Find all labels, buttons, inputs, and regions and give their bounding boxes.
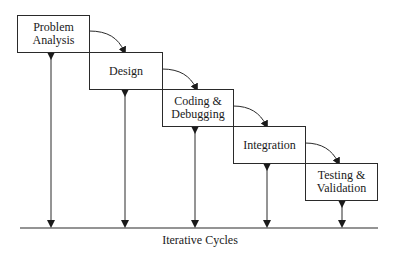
stage-label-line1: Design [109, 65, 143, 78]
flow-arrow-2 [162, 69, 196, 88]
stage-label-line1: Integration [243, 139, 296, 152]
flow-arrow-1 [89, 31, 124, 51]
stage-label-line2: Validation [317, 182, 366, 195]
flow-arrow-3 [233, 106, 266, 125]
stage-problem-analysis: Problem Analysis [17, 15, 90, 53]
stage-integration: Integration [233, 126, 306, 164]
stage-testing-validation: Testing & Validation [305, 163, 378, 201]
stage-coding-debugging: Coding & Debugging [162, 89, 234, 127]
stage-label-line2: Debugging [171, 108, 224, 121]
flow-arrow-4 [305, 143, 338, 162]
stage-design: Design [89, 52, 163, 90]
stage-label-line2: Analysis [33, 34, 75, 47]
baseline-label: Iterative Cycles [140, 233, 260, 248]
